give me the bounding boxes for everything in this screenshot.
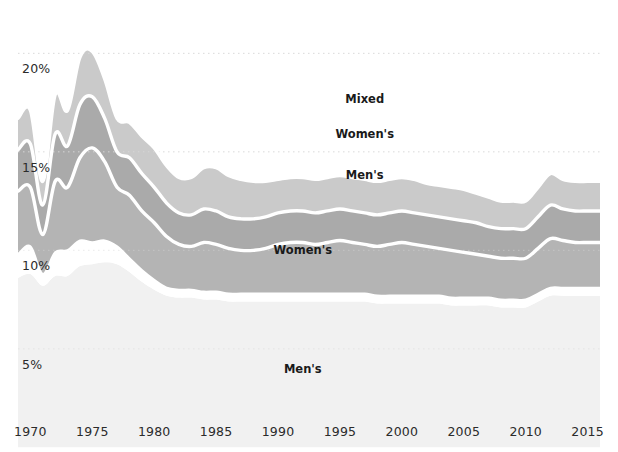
x-axis-tick-label-1985: 1985 [200, 424, 233, 439]
y-axis-tick-label-10: 10% [22, 258, 50, 273]
series-label-4: Men's [284, 362, 322, 376]
y-axis-tick-label-15: 15% [22, 160, 50, 175]
x-axis-tick-label-1970: 1970 [14, 424, 47, 439]
y-axis-tick-label-20: 20% [22, 61, 50, 76]
x-axis-tick-label-2015: 2015 [571, 424, 604, 439]
x-axis-tick-label-1995: 1995 [324, 424, 357, 439]
x-axis-tick-label-1980: 1980 [138, 424, 171, 439]
x-axis-tick-label-1975: 1975 [76, 424, 109, 439]
stacked-area-chart: 5%10%15%20% 1970197519801985199019952000… [0, 0, 618, 452]
x-axis-tick-label-2000: 2000 [386, 424, 419, 439]
series-label-3: Women's [274, 243, 333, 257]
x-axis-tick-label-1990: 1990 [262, 424, 295, 439]
chart-plot-area [0, 0, 618, 452]
series-label-0: Mixed [345, 92, 384, 106]
x-axis-tick-label-2010: 2010 [509, 424, 542, 439]
y-axis-tick-label-5: 5% [22, 357, 42, 372]
series-label-2: Men's [346, 168, 384, 182]
series-label-1: Women's [335, 127, 394, 141]
x-axis-tick-label-2005: 2005 [447, 424, 480, 439]
